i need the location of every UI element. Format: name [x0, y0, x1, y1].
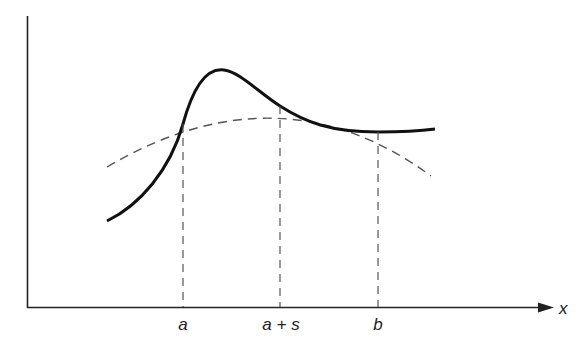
diagram-canvas: x a a + s b	[0, 0, 587, 352]
x-axis-arrow-icon	[538, 303, 554, 313]
tick-label-b: b	[373, 315, 382, 334]
x-axis-label: x	[558, 299, 568, 318]
dashed-parabola-curve	[107, 118, 431, 176]
solid-function-curve	[107, 70, 435, 221]
tick-label-a-plus-s: a + s	[262, 315, 300, 334]
tick-label-a: a	[178, 315, 187, 334]
